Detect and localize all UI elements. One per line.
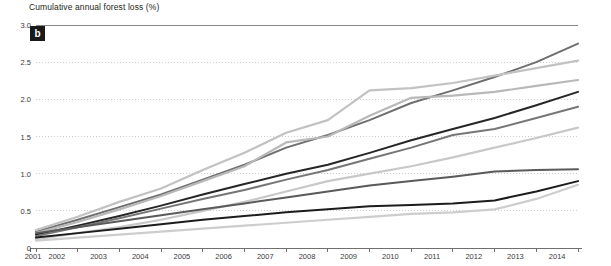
x-tick-label: 2010 (382, 252, 399, 261)
chart-root: Cumulative annual forest loss (%) b 00.5… (0, 0, 611, 266)
x-tick-label: 2003 (90, 252, 107, 261)
x-tick-label: 2004 (132, 252, 149, 261)
x-tick-label: 2008 (299, 252, 316, 261)
x-tick-label: 2013 (507, 252, 524, 261)
x-tick-label: 2001 (25, 252, 42, 261)
x-tick-label: 2011 (424, 252, 440, 261)
x-tick-label: 2007 (257, 252, 274, 261)
x-tick-label: 2012 (465, 252, 482, 261)
x-tick-label: 2014 (549, 252, 566, 261)
x-tick-label: 2009 (340, 252, 357, 261)
x-tick-label: 2005 (174, 252, 191, 261)
x-tick-label: 2006 (215, 252, 232, 261)
x-axis-labels: 2001200220032004200520062007200820092010… (0, 0, 611, 266)
x-tick-label: 2002 (49, 252, 66, 261)
